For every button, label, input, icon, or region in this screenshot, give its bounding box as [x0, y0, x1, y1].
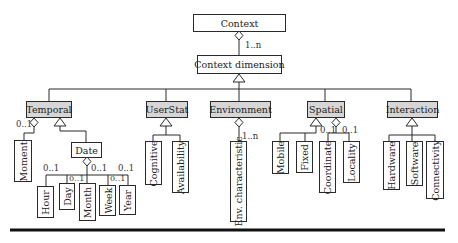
month-label: Month — [82, 186, 93, 218]
cognitive-box: Cognitive — [145, 141, 162, 185]
date-box: Date — [71, 142, 102, 158]
day-multiplicity: 0..1 — [69, 174, 84, 183]
coordinate-multiplicity: 0..1 — [320, 125, 336, 135]
connectivity-box: Connectivity — [426, 141, 444, 199]
locality-box: Locality — [343, 141, 360, 183]
year-label: Year — [122, 189, 133, 210]
context-box: Context — [193, 14, 286, 32]
locality-label: Locality — [346, 143, 357, 181]
cognitive-label: Cognitive — [148, 140, 159, 186]
year-multiplicity: 0..1 — [118, 163, 134, 173]
context-dimension-label: Context dimension — [194, 59, 284, 70]
spatial-box: Spatial — [307, 101, 345, 118]
moment-box: Moment — [14, 140, 32, 182]
fixed-box: Fixed — [296, 141, 313, 173]
uml-context-diagram: Context 1..n Context dimension Temporal … — [0, 0, 458, 243]
week-label: Week — [102, 188, 113, 214]
week-multiplicity: 0..1 — [110, 174, 125, 183]
hour-box: Hour — [37, 186, 54, 218]
context-label: Context — [221, 18, 259, 29]
date-label: Date — [75, 145, 98, 156]
hour-multiplicity: 0..1 — [43, 163, 59, 173]
interaction-box: Interaction — [387, 101, 438, 118]
context-multiplicity: 1..n — [245, 40, 261, 50]
env-characteristic-box: Env. characteristic — [230, 141, 247, 222]
software-box: Software — [406, 141, 423, 186]
month-box: Month — [79, 183, 96, 221]
hour-label: Hour — [40, 190, 51, 215]
context-dimension-box: Context dimension — [197, 55, 282, 74]
availability-box: Availability — [172, 141, 189, 193]
week-box: Week — [99, 185, 116, 216]
environment-label: Environment — [209, 104, 271, 115]
spatial-label: Spatial — [309, 104, 343, 115]
locality-multiplicity: 0..1 — [342, 125, 358, 135]
interaction-label: Interaction — [386, 104, 440, 115]
month-multiplicity: 0..1 — [91, 163, 107, 173]
hardware-label: Hardware — [386, 141, 397, 190]
moment-multiplicity: 0..1 — [16, 119, 32, 129]
day-box: Day — [59, 183, 75, 210]
mobile-label: Mobile — [275, 141, 286, 174]
moment-label: Moment — [18, 141, 29, 181]
userstat-box: UserStat — [146, 101, 188, 118]
temporal-label: Temporal — [26, 104, 71, 115]
mobile-box: Mobile — [272, 141, 289, 174]
env-multiplicity: 1..n — [242, 131, 258, 141]
coordinate-box: Coordinate — [319, 141, 336, 193]
temporal-box: Temporal — [26, 101, 72, 118]
userstat-label: UserStat — [146, 104, 189, 115]
software-label: Software — [409, 142, 420, 186]
year-box: Year — [119, 185, 136, 215]
env-characteristic-label: Env. characteristic — [233, 136, 244, 226]
connectivity-label: Connectivity — [430, 140, 441, 201]
hardware-box: Hardware — [383, 141, 400, 190]
day-label: Day — [62, 187, 73, 206]
availability-label: Availability — [175, 140, 186, 194]
coordinate-label: Coordinate — [322, 140, 333, 194]
fixed-label: Fixed — [299, 144, 310, 171]
environment-box: Environment — [210, 101, 271, 118]
